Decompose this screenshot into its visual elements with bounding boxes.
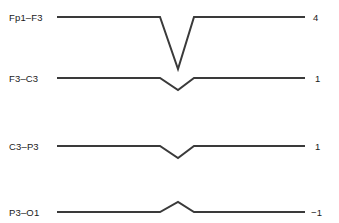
channel-value-c3-p3: 1: [315, 142, 320, 152]
eeg-trace-figure: Fp1–F3 F3–C3 C3–P3 P3–O1 4 1 1 −1: [0, 0, 339, 223]
channel-label-c3-p3: C3–P3: [9, 142, 39, 152]
channel-label-p3-o1: P3–O1: [9, 208, 39, 218]
channel-value-p3-o1: −1: [311, 208, 322, 218]
trace-path-f3-c3: [57, 78, 305, 90]
channel-value-f3-c3: 1: [315, 74, 320, 84]
trace-path-p3-o1: [57, 202, 305, 212]
trace-path-c3-p3: [57, 146, 305, 158]
eeg-traces-svg: [0, 0, 339, 223]
trace-path-fp1-f3: [57, 17, 305, 69]
channel-label-f3-c3: F3–C3: [9, 74, 38, 84]
channel-label-fp1-f3: Fp1–F3: [9, 13, 43, 23]
channel-value-fp1-f3: 4: [313, 13, 318, 23]
